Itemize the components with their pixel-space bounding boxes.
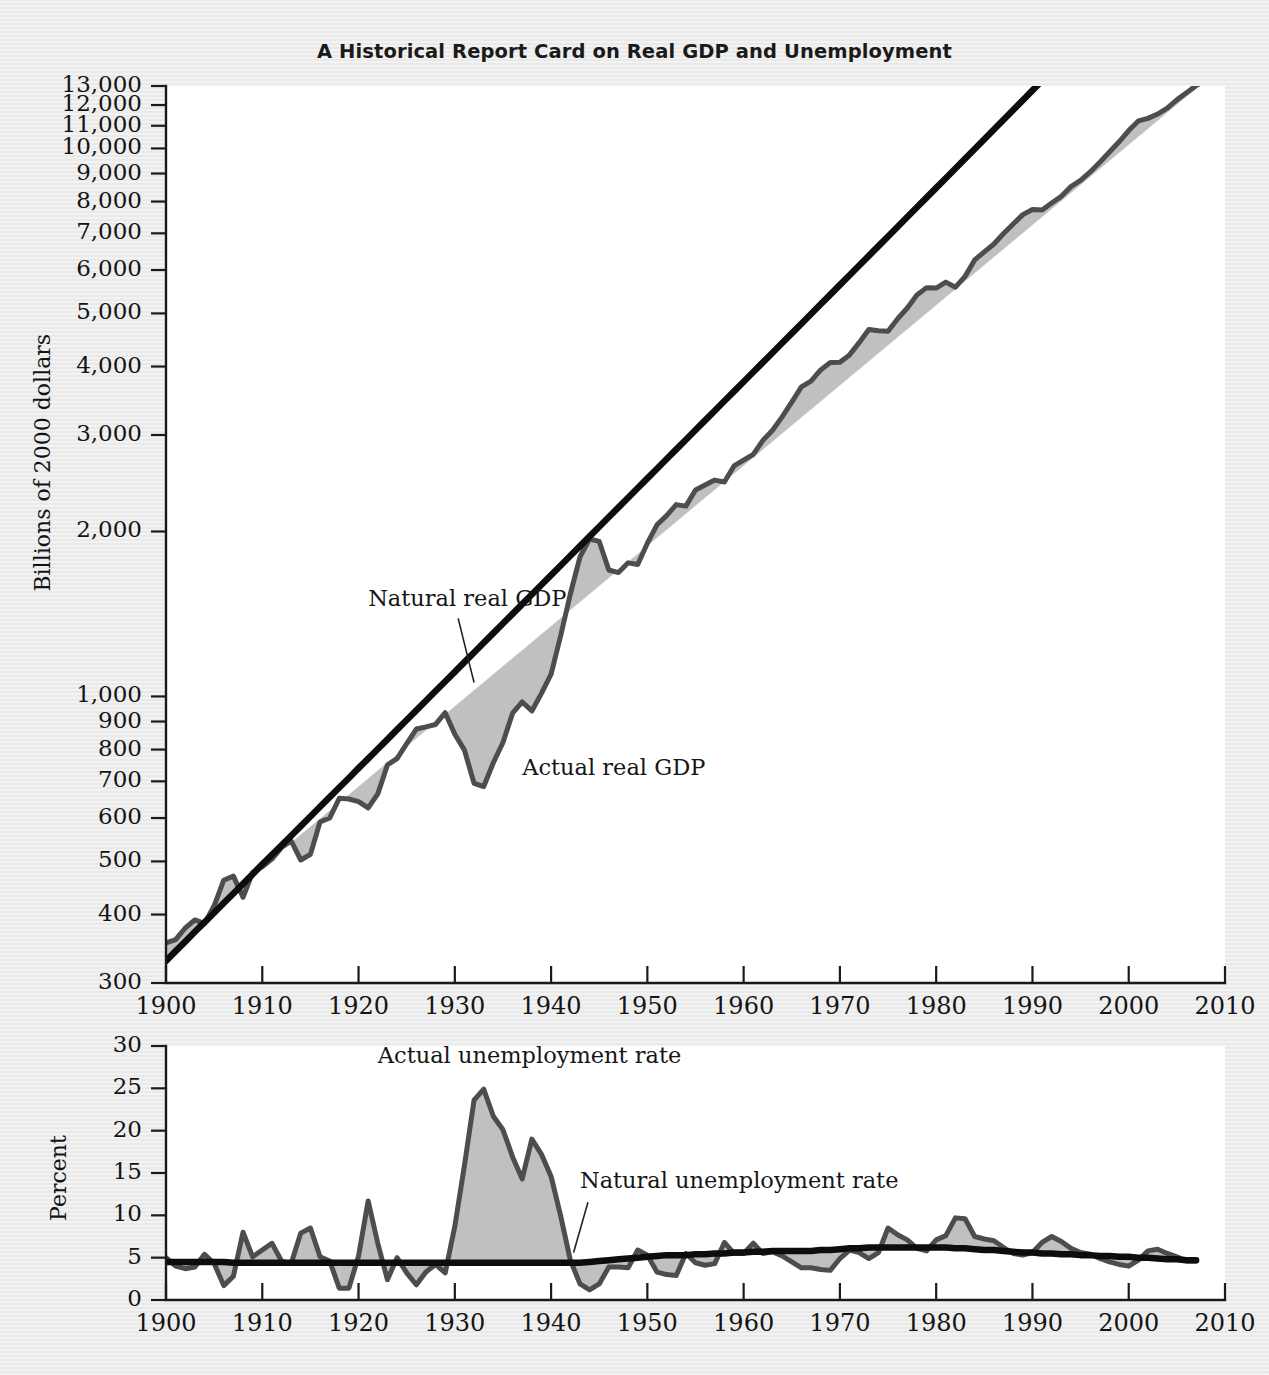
- gdp-xtick-label: 1910: [232, 992, 293, 1020]
- gdp-ytick-label: 600: [98, 803, 142, 829]
- gdp-ytick-label: 9,000: [76, 159, 142, 185]
- unemployment-plot-area: [166, 1046, 1225, 1300]
- gdp-xtick-label: 2010: [1194, 992, 1255, 1020]
- gdp-ytick-label: 11,000: [62, 111, 142, 137]
- unemployment-xtick-label: 1920: [328, 1309, 389, 1337]
- gdp-ytick-label: 800: [98, 735, 142, 761]
- gdp-ytick-label: 13,000: [62, 71, 142, 97]
- gdp-ytick-label: 500: [98, 846, 142, 872]
- gdp-ytick-label: 5,000: [76, 298, 142, 324]
- gdp-ytick-label: 8,000: [76, 187, 142, 213]
- gdp-ytick-label: 10,000: [62, 133, 142, 159]
- gdp-xtick-label: 1900: [135, 992, 196, 1020]
- unemployment-xtick-label: 1910: [232, 1309, 293, 1337]
- page-title: A Historical Report Card on Real GDP and…: [0, 40, 1269, 63]
- unemployment-xtick-label: 1990: [1002, 1309, 1063, 1337]
- unemployment-xtick-label: 1970: [809, 1309, 870, 1337]
- gdp-ytick-label: 12,000: [62, 90, 142, 116]
- unemployment-ytick-label: 10: [113, 1200, 142, 1226]
- unemployment-ytick-label: 30: [113, 1031, 142, 1057]
- unemployment-xtick-label: 1930: [424, 1309, 485, 1337]
- gdp-xtick-label: 2000: [1098, 992, 1159, 1020]
- gdp-xtick-label: 1930: [424, 992, 485, 1020]
- gdp-xtick-label: 1990: [1002, 992, 1063, 1020]
- unemployment-xtick-label: 1980: [906, 1309, 967, 1337]
- unemployment-ytick-label: 15: [113, 1158, 142, 1184]
- unemployment-yaxis-title: Percent: [46, 1135, 71, 1221]
- unemployment-ytick-label: 5: [127, 1243, 142, 1269]
- gdp-xtick-label: 1950: [617, 992, 678, 1020]
- gdp-xtick-label: 1970: [809, 992, 870, 1020]
- gdp-ytick-label: 6,000: [76, 255, 142, 281]
- figure-page: A Historical Report Card on Real GDP and…: [0, 0, 1269, 1375]
- gdp-ytick-label: 900: [98, 707, 142, 733]
- unemployment-xtick-label: 2000: [1098, 1309, 1159, 1337]
- gdp-ytick-label: 2,000: [76, 516, 142, 542]
- unemployment-xtick-label: 2010: [1194, 1309, 1255, 1337]
- gdp-ytick-label: 1,000: [76, 681, 142, 707]
- gdp-ytick-label: 3,000: [76, 420, 142, 446]
- unemployment-xtick-label: 1950: [617, 1309, 678, 1337]
- gdp-ytick-label: 7,000: [76, 218, 142, 244]
- gdp-ytick-label: 400: [98, 900, 142, 926]
- gdp-xtick-label: 1940: [521, 992, 582, 1020]
- gdp-xtick-label: 1980: [906, 992, 967, 1020]
- gdp-ytick-label: 700: [98, 766, 142, 792]
- unemployment-ytick-label: 20: [113, 1116, 142, 1142]
- unemployment-ytick-label: 0: [127, 1285, 142, 1311]
- unemployment-xtick-label: 1960: [713, 1309, 774, 1337]
- gdp-yaxis-title: Billions of 2000 dollars: [30, 334, 55, 592]
- gdp-xtick-label: 1960: [713, 992, 774, 1020]
- gdp-xtick-label: 1920: [328, 992, 389, 1020]
- unemployment-ytick-label: 25: [113, 1073, 142, 1099]
- gdp-plot-area: [166, 86, 1225, 983]
- unemployment-xtick-label: 1940: [521, 1309, 582, 1337]
- gdp-ytick-label: 300: [98, 968, 142, 994]
- gdp-ytick-label: 4,000: [76, 352, 142, 378]
- unemployment-xtick-label: 1900: [135, 1309, 196, 1337]
